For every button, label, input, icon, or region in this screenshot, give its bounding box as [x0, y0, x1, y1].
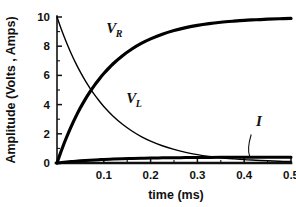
- annotation-subscript: L: [135, 98, 142, 109]
- annotation-symbol: I: [255, 113, 263, 129]
- y-tick-label: 4: [44, 99, 51, 111]
- y-tick-label: 10: [37, 11, 50, 23]
- x-axis-title: time (ms): [148, 188, 204, 202]
- x-tick-label: 0.4: [236, 169, 253, 181]
- y-tick-label: 2: [44, 128, 50, 140]
- annotation-subscript: R: [115, 28, 123, 39]
- x-tick-label: 0.3: [189, 169, 205, 181]
- x-tick-label: 0.5: [283, 169, 296, 181]
- y-tick-label: 6: [44, 69, 50, 81]
- chart-figure: 0246810 0.10.20.30.40.5 VRVLI time (ms) …: [0, 0, 296, 207]
- rl-response-plot: 0246810 0.10.20.30.40.5 VRVLI time (ms) …: [0, 0, 296, 207]
- y-axis-title: Amplitude (Volts , Amps): [4, 16, 18, 163]
- annotation-I: I: [255, 113, 263, 129]
- y-tick-label: 8: [44, 40, 51, 52]
- y-tick-label: 0: [44, 157, 50, 169]
- x-tick-label: 0.2: [143, 169, 159, 181]
- x-tick-label: 0.1: [96, 169, 113, 181]
